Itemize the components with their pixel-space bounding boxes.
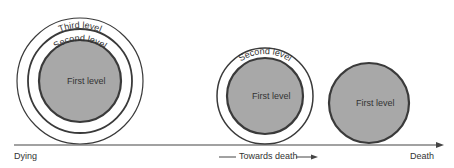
third-level-label: Third level — [57, 20, 103, 34]
axis-end-label: Death — [410, 151, 434, 161]
first-level-label-2: First level — [252, 91, 291, 101]
axis-middle-label: Towards death — [239, 151, 298, 161]
towards-arrow-icon — [311, 155, 318, 160]
first-level-label-1: First level — [67, 76, 106, 86]
first-level-label-3: First level — [356, 98, 395, 108]
axis-start-label: Dying — [14, 151, 37, 161]
axis-arrowhead-icon — [436, 142, 444, 148]
